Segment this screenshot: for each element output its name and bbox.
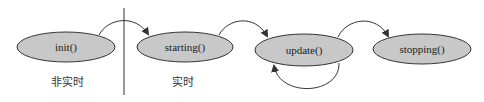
node-update: update() xyxy=(255,34,353,66)
lifecycle-diagram: init() starting() update() stopping() 非实… xyxy=(0,0,484,102)
node-init-label: init() xyxy=(55,41,77,54)
node-starting: starting() xyxy=(137,32,233,62)
node-stopping-label: stopping() xyxy=(399,43,445,56)
node-starting-label: starting() xyxy=(165,41,206,54)
node-stopping: stopping() xyxy=(373,34,471,64)
node-init: init() xyxy=(17,32,115,62)
edge-starting-to-update xyxy=(219,21,267,36)
zone-label-non-realtime: 非实时 xyxy=(51,75,84,89)
edge-update-to-stopping xyxy=(338,21,388,37)
zone-label-realtime: 实时 xyxy=(172,75,194,89)
edge-update-self-loop xyxy=(274,63,339,89)
node-update-label: update() xyxy=(286,44,323,57)
